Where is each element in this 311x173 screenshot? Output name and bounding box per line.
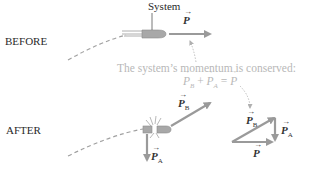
note-pointer-top — [190, 41, 196, 62]
triangle-p-label: → P — [253, 147, 260, 159]
triangle-pb-label: → PB — [246, 114, 257, 129]
fragment-a-icon — [143, 126, 152, 133]
p-vector-label: → P — [183, 14, 190, 26]
pa-vector-label: → PA — [151, 150, 163, 165]
after-label: AFTER — [6, 124, 41, 136]
system-label: System — [148, 0, 180, 12]
motion-lines-icon — [122, 31, 142, 36]
after-trajectory — [68, 129, 143, 156]
before-label: BEFORE — [5, 35, 47, 47]
conservation-equation: →PB + →PA = →P — [183, 75, 237, 90]
projectile-icon — [142, 30, 166, 38]
vector-arrow-accent: → — [184, 7, 192, 16]
note-pointer-bottom — [240, 86, 250, 108]
fragment-b-icon — [157, 126, 171, 133]
triangle-pa-label: → PA — [281, 124, 293, 139]
pb-arrow — [171, 103, 210, 126]
before-trajectory — [68, 35, 126, 60]
pb-vector-label: → PB — [178, 97, 189, 112]
